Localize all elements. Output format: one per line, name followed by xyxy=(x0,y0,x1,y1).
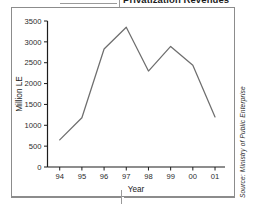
chart-title-band: Privatization Revenues xyxy=(0,0,257,7)
figure-footer-divider xyxy=(121,190,122,204)
figure-frame xyxy=(11,7,235,197)
page-title: Privatization Revenues xyxy=(123,0,229,5)
source-credit: Source: Ministry of Public Enterprise xyxy=(239,86,246,198)
title-rule-divider xyxy=(119,0,120,7)
figure-footer-rule-left xyxy=(11,197,121,198)
figure-footer-rule-right xyxy=(124,197,235,198)
title-rule-left xyxy=(60,3,117,4)
